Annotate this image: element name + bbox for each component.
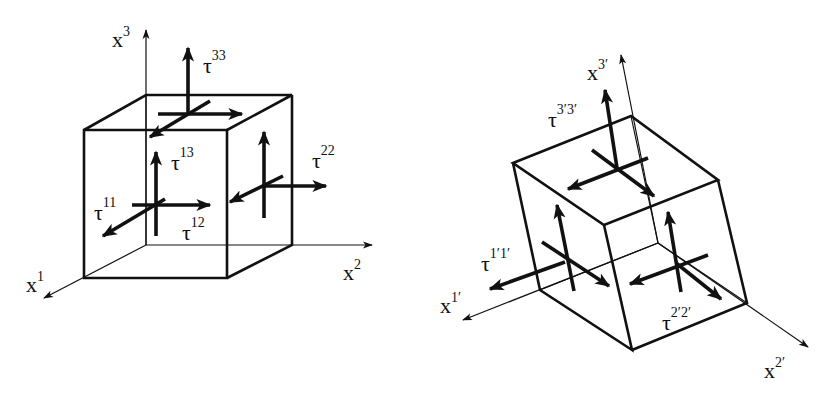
tau3p3p-label: τ3′3′ (548, 102, 577, 132)
x1p-axis-label: x1′ (440, 290, 461, 318)
tau33-arrows (150, 48, 242, 137)
x1-axis (44, 245, 146, 298)
tau33-shear-x1-arrow (150, 101, 210, 137)
right-face-arrows (230, 132, 326, 218)
cube-left-face (513, 163, 632, 350)
tau12-label: τ12 (182, 215, 205, 245)
tau1p1p-shear-arrow (542, 242, 609, 286)
right-panel: x3′ x1′ x2′ τ3′3′ τ1′1′ τ2′2′ (440, 55, 808, 383)
tau33-label: τ33 (203, 48, 226, 78)
right-cube (513, 116, 747, 350)
tau1p1p-label: τ1′1′ (481, 246, 510, 276)
x3p-axis-label: x3′ (587, 57, 608, 85)
cube-hidden-edge (631, 116, 658, 243)
right-axes (463, 55, 808, 347)
stress-cube-diagram: x3 x2 x1 τ33 τ13 τ11 τ12 τ22 (0, 0, 831, 407)
tau22-shear-arrow (230, 176, 283, 202)
tau13-label: τ13 (171, 145, 194, 175)
tau1p1p-vertical-arrow (557, 205, 574, 291)
left-panel: x3 x2 x1 τ33 τ13 τ11 τ12 τ22 (26, 24, 372, 298)
x3-axis-label: x3 (112, 24, 130, 52)
x2p-axis-label: x2′ (764, 355, 785, 383)
x1-axis-label: x1 (26, 269, 44, 297)
tau11-label: τ11 (94, 195, 116, 225)
tau2p2p-arrows (630, 212, 721, 299)
x2-axis-label: x2 (343, 257, 361, 285)
tau3p3p-arrows (568, 90, 654, 196)
tau3p3p-normal-arrow (605, 90, 617, 168)
tau22-label: τ22 (312, 143, 335, 173)
